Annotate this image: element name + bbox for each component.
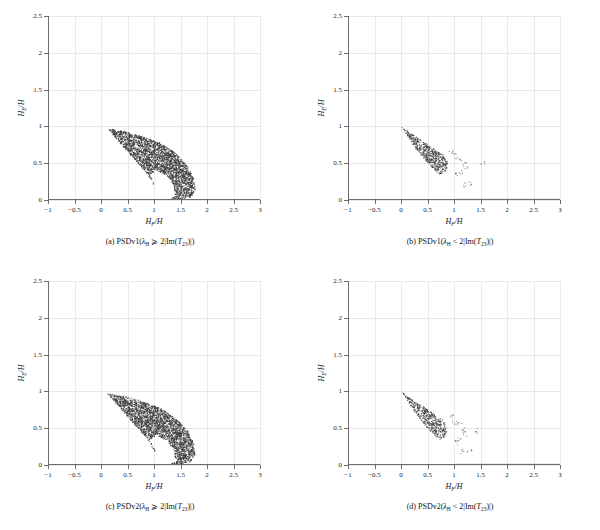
x-gridline (375, 16, 376, 200)
y-tick-label: 0 (39, 461, 43, 469)
x-tick-label: 1.5 (476, 206, 485, 214)
y-tick-label: 1.5 (33, 86, 42, 94)
y-tick-label: 2.5 (333, 12, 342, 20)
y-tick (44, 53, 48, 54)
panel-a: HE/H HF/H −1−0.500.511.522.5300.511.522.… (0, 0, 300, 265)
y-tick-label: 1.5 (333, 351, 342, 359)
x-tick-label: 3 (258, 471, 262, 479)
plot-area-a: HE/H HF/H −1−0.500.511.522.5300.511.522.… (48, 16, 260, 200)
y-tick (44, 16, 48, 17)
x-tick (101, 465, 102, 469)
y-tick-label: 2.5 (333, 277, 342, 285)
x-tick-label: 3 (558, 471, 562, 479)
y-tick (44, 318, 48, 319)
y-tick (344, 465, 348, 466)
x-gridline (207, 281, 208, 465)
x-tick-label: 3 (258, 206, 262, 214)
x-tick (75, 200, 76, 204)
x-gridline (234, 281, 235, 465)
x-tick-label: 2 (505, 471, 509, 479)
x-tick-label: −1 (344, 206, 351, 214)
x-tick-label: −0.5 (68, 206, 81, 214)
x-tick (128, 465, 129, 469)
x-tick (154, 465, 155, 469)
y-tick-label: 0 (339, 196, 343, 204)
x-gridline (181, 281, 182, 465)
x-gridline (207, 16, 208, 200)
y-axis-line-a (48, 16, 49, 200)
x-gridline (128, 281, 129, 465)
x-tick (348, 200, 349, 204)
caption-c: (c) PSDv2(λH ⩾ 2|Im(T23)|) (0, 502, 300, 511)
y-axis-line-b (348, 16, 349, 200)
x-gridline (507, 16, 508, 200)
x-tick-label: 1 (152, 206, 156, 214)
x-tick-label: 0.5 (423, 471, 432, 479)
panel-b: HE/H HF/H −1−0.500.511.522.5300.511.522.… (300, 0, 600, 265)
x-gridline (181, 16, 182, 200)
x-tick (101, 200, 102, 204)
y-tick-label: 2.5 (33, 277, 42, 285)
x-tick (534, 200, 535, 204)
y-tick (344, 163, 348, 164)
x-tick (560, 200, 561, 204)
y-tick (344, 126, 348, 127)
y-axis-title-d: HE/H (317, 364, 326, 381)
x-tick-label: 1 (452, 206, 456, 214)
y-tick (344, 90, 348, 91)
x-gridline (454, 281, 455, 465)
x-tick (454, 465, 455, 469)
x-tick (428, 200, 429, 204)
x-tick (507, 465, 508, 469)
x-tick-label: 0.5 (123, 471, 132, 479)
x-gridline (401, 281, 402, 465)
x-gridline (75, 281, 76, 465)
y-tick-label: 2 (39, 49, 43, 57)
x-tick (234, 465, 235, 469)
x-tick-label: −0.5 (368, 206, 381, 214)
y-tick (44, 465, 48, 466)
x-tick-label: 2.5 (229, 471, 238, 479)
x-gridline (428, 16, 429, 200)
x-gridline (428, 281, 429, 465)
x-gridline (481, 281, 482, 465)
x-gridline (260, 16, 261, 200)
x-tick (348, 465, 349, 469)
y-tick-label: 1.5 (333, 86, 342, 94)
x-tick-label: 2 (205, 471, 209, 479)
x-tick-label: 2.5 (529, 206, 538, 214)
y-tick (344, 53, 348, 54)
y-tick (44, 391, 48, 392)
y-tick (344, 16, 348, 17)
x-tick (375, 200, 376, 204)
y-tick-label: 0.5 (333, 424, 342, 432)
x-tick (507, 200, 508, 204)
y-tick (344, 355, 348, 356)
x-tick-label: 1 (152, 471, 156, 479)
x-tick (154, 200, 155, 204)
x-tick (375, 465, 376, 469)
x-gridline (154, 281, 155, 465)
x-tick (534, 465, 535, 469)
x-tick (128, 200, 129, 204)
x-tick (207, 200, 208, 204)
x-tick-label: 0 (399, 471, 403, 479)
y-tick (344, 200, 348, 201)
x-tick-label: 0.5 (123, 206, 132, 214)
y-tick (44, 163, 48, 164)
x-gridline (154, 16, 155, 200)
x-gridline (481, 16, 482, 200)
figure-grid: HE/H HF/H −1−0.500.511.522.5300.511.522.… (0, 0, 600, 530)
x-tick (560, 465, 561, 469)
caption-b: (b) PSDv1(λH < 2|Im(T23)|) (300, 237, 600, 246)
x-tick-label: 3 (558, 206, 562, 214)
x-tick (48, 465, 49, 469)
x-tick-label: 1.5 (176, 206, 185, 214)
y-tick-label: 2 (39, 314, 43, 322)
x-gridline (101, 16, 102, 200)
x-tick-label: 1.5 (176, 471, 185, 479)
x-gridline (507, 281, 508, 465)
y-tick-label: 0 (39, 196, 43, 204)
y-tick-label: 2 (339, 314, 343, 322)
x-tick-label: 0.5 (423, 206, 432, 214)
